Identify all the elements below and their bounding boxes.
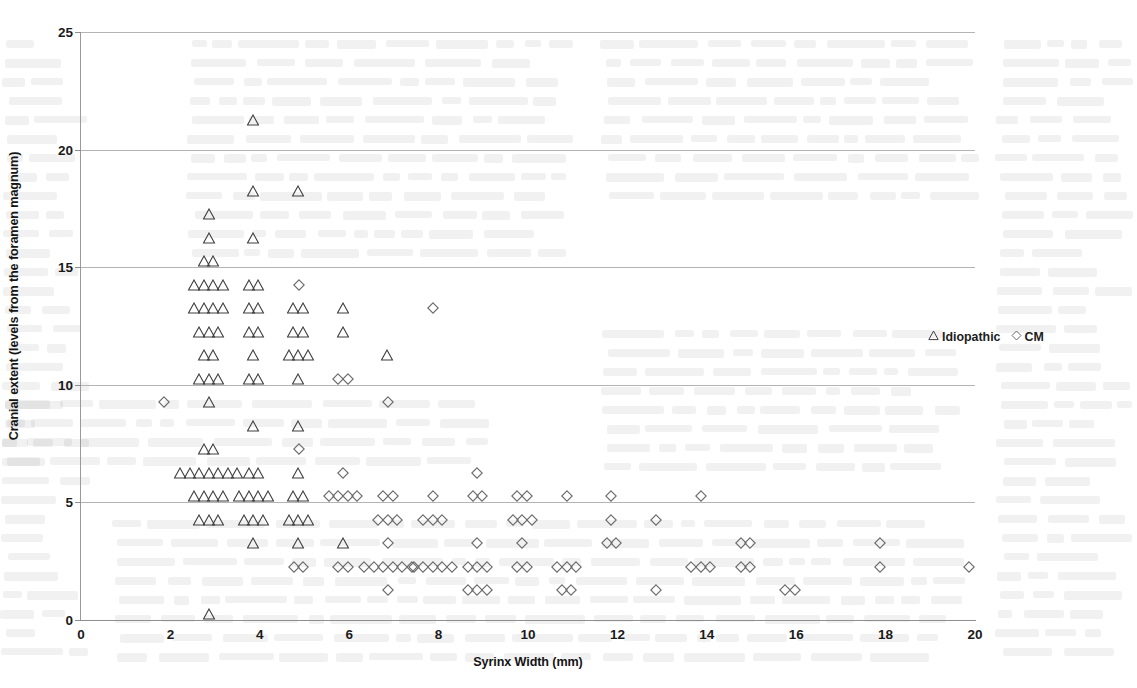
gridline [81,32,975,33]
y-tick-mark [75,267,81,268]
gridline [81,150,975,151]
x-tick-label: 2 [167,627,175,642]
x-axis-title: Syrinx Width (mm) [81,655,975,669]
chart-legend: Idiopathic CM [928,330,1044,344]
x-tick-label: 16 [789,627,804,642]
x-tick-label: 4 [256,627,264,642]
diamond-marker-icon [1011,330,1022,344]
y-axis-title: Cranial extent (levels from the foramen … [2,0,26,596]
y-tick-mark [75,502,81,503]
x-tick-label: 10 [520,627,535,642]
x-tick-label: 18 [878,627,893,642]
y-tick-label: 15 [58,260,73,275]
y-tick-label: 0 [65,613,73,628]
y-tick-label: 20 [58,142,73,157]
legend-entry-cm: CM [1011,330,1044,344]
legend-entry-idiopathic: Idiopathic [928,330,1001,344]
legend-label-idiopathic: Idiopathic [942,330,1001,344]
y-tick-mark [75,385,81,386]
legend-label-cm: CM [1025,330,1044,344]
y-tick-mark [75,32,81,33]
triangle-marker-icon [928,330,939,344]
y-tick-label: 5 [65,495,73,510]
x-tick-label: 0 [77,627,85,642]
y-tick-label: 25 [58,25,73,40]
x-tick-label: 6 [345,627,353,642]
scatter-chart-figure: Cranial extent (levels from the foramen … [0,0,1137,688]
plot-area: 0510152025 02468101214161820 [81,32,975,620]
x-tick-label: 8 [435,627,443,642]
x-tick-label: 20 [967,627,982,642]
y-axis-line [80,32,81,620]
x-tick-label: 14 [699,627,714,642]
y-tick-mark [75,620,81,621]
y-tick-label: 10 [58,377,73,392]
x-tick-label: 12 [610,627,625,642]
y-tick-mark [75,150,81,151]
